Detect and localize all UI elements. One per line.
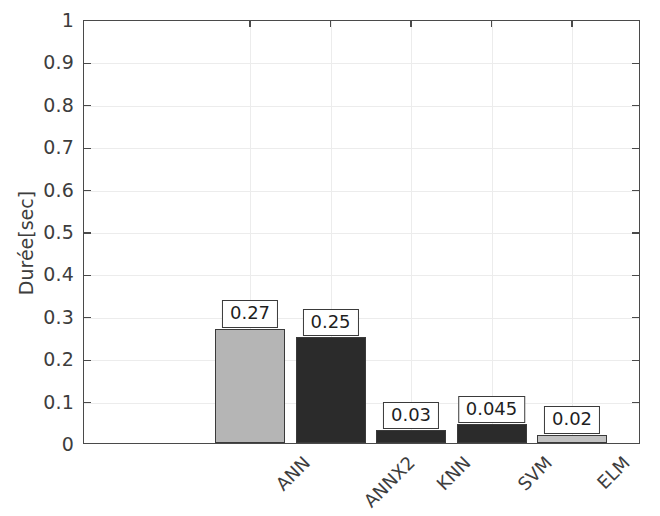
y-axis-tick-labels: 00.10.20.30.40.50.60.70.80.91 — [0, 20, 74, 444]
y-axis-tick — [84, 275, 91, 276]
y-axis-tick-label: 0.3 — [43, 306, 74, 328]
bar-annx2 — [296, 337, 366, 443]
y-axis-tick-label: 0.8 — [43, 94, 74, 116]
y-axis-tick-label: 1 — [62, 9, 74, 31]
gridline-horizontal — [84, 318, 639, 319]
bar-value-label: 0.03 — [383, 402, 439, 429]
y-axis-tick — [632, 360, 639, 361]
x-axis-tick — [410, 21, 411, 27]
gridline-horizontal — [84, 106, 639, 107]
y-axis-title: Durée[sec] — [15, 143, 37, 343]
x-axis-tick — [249, 21, 250, 27]
y-axis-tick-label: 0.6 — [43, 179, 74, 201]
bar-value-label: 0.25 — [302, 309, 358, 336]
bar-ann — [215, 329, 285, 443]
y-axis-tick-label: 0.1 — [43, 391, 74, 413]
plot-area: 0.270.250.030.0450.02 — [83, 20, 640, 444]
bar-elm — [537, 435, 607, 443]
y-axis-tick-label: 0.2 — [43, 348, 74, 370]
y-axis-tick — [84, 232, 91, 233]
y-axis-tick-label: 0.4 — [43, 263, 74, 285]
gridline-horizontal — [84, 63, 639, 64]
y-axis-tick — [632, 275, 639, 276]
x-axis-tick — [491, 21, 492, 27]
y-axis-tick-label: 0.7 — [43, 136, 74, 158]
x-axis-tick-label-annx2: ANNX2 — [359, 452, 418, 511]
bar-chart-figure: 00.10.20.30.40.50.60.70.80.91 Durée[sec]… — [0, 0, 660, 516]
bar-knn — [376, 430, 446, 443]
y-axis-tick — [84, 360, 91, 361]
y-axis-tick — [84, 148, 91, 149]
gridline-vertical — [572, 21, 573, 443]
gridline-vertical — [411, 21, 412, 443]
bar-svm — [457, 424, 527, 443]
y-axis-tick — [632, 190, 639, 191]
gridline-horizontal — [84, 148, 639, 149]
x-axis-tick-label-ann: ANN — [271, 452, 314, 495]
y-axis-tick — [84, 317, 91, 318]
y-axis-tick — [632, 105, 639, 106]
x-axis-tick-labels: ANNANNX2KNNSVMELM — [83, 444, 640, 516]
bar-value-label: 0.02 — [544, 406, 600, 433]
y-axis-tick — [84, 105, 91, 106]
y-axis-tick — [632, 63, 639, 64]
gridline-vertical — [492, 21, 493, 443]
y-axis-tick-label: 0.9 — [43, 51, 74, 73]
y-axis-tick-label: 0.5 — [43, 221, 74, 243]
gridline-horizontal — [84, 233, 639, 234]
y-axis-tick — [632, 148, 639, 149]
y-axis-tick — [84, 63, 91, 64]
x-axis-tick-label-elm: ELM — [593, 452, 634, 493]
gridline-horizontal — [84, 275, 639, 276]
bar-value-label: 0.045 — [458, 396, 526, 423]
y-axis-tick — [84, 190, 91, 191]
x-axis-tick-label-knn: KNN — [432, 452, 474, 494]
y-axis-tick — [84, 402, 91, 403]
y-axis-tick-label: 0 — [62, 433, 74, 455]
y-axis-tick — [632, 232, 639, 233]
y-axis-tick — [632, 402, 639, 403]
bar-value-label: 0.27 — [222, 300, 278, 327]
x-axis-tick-label-svm: SVM — [513, 452, 556, 495]
y-axis-tick — [632, 317, 639, 318]
gridline-horizontal — [84, 191, 639, 192]
x-axis-tick — [330, 21, 331, 27]
x-axis-tick — [571, 21, 572, 27]
